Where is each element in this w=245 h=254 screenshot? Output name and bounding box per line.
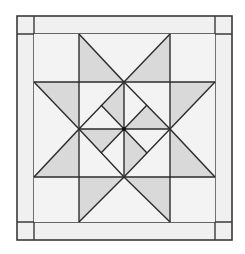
center-point (122, 127, 126, 131)
inner-block (34, 34, 215, 222)
quilt-diagram (0, 0, 245, 254)
